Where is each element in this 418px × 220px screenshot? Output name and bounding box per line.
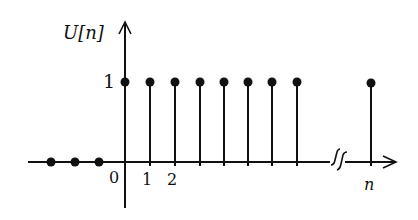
unit-step-plot: U[n] n 1 0 1 2 — [0, 0, 418, 220]
x-tick-two: 2 — [167, 172, 177, 188]
y-axis-label: U[n] — [63, 24, 104, 42]
x-axis-label: n — [364, 177, 374, 193]
x-tick-zero: 0 — [109, 170, 119, 186]
zero-samples — [47, 158, 104, 167]
unit-samples — [125, 82, 371, 166]
x-tick-one: 1 — [142, 172, 152, 188]
axis-break-icon — [331, 149, 340, 165]
y-tick-one: 1 — [103, 72, 115, 91]
